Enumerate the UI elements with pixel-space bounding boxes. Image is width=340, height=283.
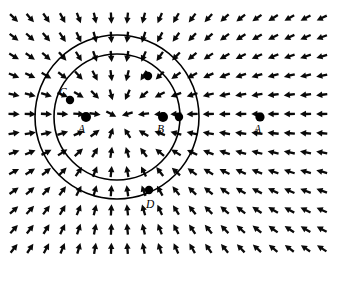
field-arrow-icon — [124, 128, 131, 138]
field-arrow-icon — [268, 92, 279, 98]
field-arrow-icon — [300, 207, 311, 213]
field-arrow-icon — [171, 149, 181, 156]
field-arrow-icon — [285, 245, 295, 253]
field-arrow-icon — [189, 224, 196, 234]
field-arrow-icon — [285, 226, 295, 233]
field-arrow-icon — [124, 32, 130, 43]
field-arrow-icon — [268, 207, 278, 214]
field-arrow-icon — [108, 89, 114, 100]
field-arrow-icon — [235, 111, 246, 117]
field-arrow-icon — [58, 71, 68, 79]
field-arrow-icon — [300, 92, 311, 98]
field-arrow-icon — [141, 243, 147, 254]
field-arrow-icon — [316, 92, 327, 98]
field-arrow-icon — [188, 32, 197, 41]
point-marker-A-right — [255, 112, 264, 121]
field-arrow-icon — [300, 111, 311, 117]
point-label-D-inner: D — [145, 198, 155, 210]
field-arrow-icon — [9, 225, 17, 234]
field-arrow-icon — [220, 33, 230, 41]
field-arrow-icon — [189, 243, 196, 253]
field-arrow-icon — [268, 34, 279, 40]
field-arrow-icon — [220, 53, 230, 60]
field-arrow-icon — [89, 111, 100, 117]
field-arrow-icon — [124, 147, 130, 158]
field-arrow-icon — [316, 130, 327, 136]
field-arrow-icon — [173, 32, 181, 42]
field-arrow-icon — [219, 92, 230, 98]
field-arrow-icon — [172, 52, 181, 61]
field-arrow-icon — [204, 206, 213, 215]
field-arrow-icon — [108, 166, 114, 177]
field-arrow-icon — [41, 168, 51, 176]
field-arrow-icon — [235, 72, 246, 78]
field-arrow-icon — [108, 12, 114, 23]
field-arrow-icon — [157, 205, 163, 216]
field-arrow-icon — [124, 204, 130, 215]
field-arrow-icon — [268, 53, 279, 59]
field-arrow-icon — [25, 150, 36, 156]
field-arrow-icon — [203, 111, 214, 117]
field-arrow-icon — [284, 14, 294, 21]
field-arrow-icon — [59, 243, 65, 254]
field-arrow-icon — [108, 51, 114, 62]
field-arrow-icon — [173, 243, 179, 254]
field-arrow-icon — [76, 243, 82, 254]
field-arrow-icon — [188, 187, 197, 196]
field-arrow-icon — [205, 244, 212, 254]
field-arrow-icon — [25, 187, 34, 195]
field-arrow-icon — [91, 70, 97, 80]
field-arrow-icon — [203, 72, 214, 78]
field-arrow-icon — [173, 205, 180, 215]
field-arrow-icon — [75, 32, 81, 43]
field-arrow-icon — [140, 148, 148, 158]
field-arrow-icon — [204, 33, 213, 41]
field-arrow-icon — [90, 130, 100, 138]
field-arrow-icon — [253, 244, 262, 253]
field-arrow-icon — [92, 51, 98, 62]
field-arrow-icon — [59, 224, 65, 235]
field-arrow-icon — [236, 169, 247, 175]
field-arrow-icon — [301, 14, 311, 20]
field-arrow-icon — [252, 207, 262, 214]
field-arrow-icon — [235, 92, 246, 98]
field-arrow-icon — [42, 205, 50, 215]
field-arrow-icon — [317, 207, 328, 213]
point-marker-dot-right-inner — [175, 113, 183, 121]
field-arrow-icon — [221, 244, 229, 253]
field-arrow-icon — [300, 188, 311, 194]
field-arrow-icon — [171, 72, 181, 79]
field-arrow-icon — [157, 32, 163, 42]
field-arrow-icon — [235, 130, 246, 136]
field-arrow-icon — [284, 169, 295, 175]
field-arrow-icon — [74, 149, 83, 157]
field-arrow-icon — [124, 243, 130, 254]
field-arrow-icon — [124, 70, 130, 81]
field-arrow-icon — [43, 243, 49, 253]
field-arrow-icon — [138, 111, 149, 117]
field-arrow-icon — [59, 32, 66, 42]
field-arrow-icon — [57, 111, 68, 117]
point-label-A-center: A — [77, 123, 86, 135]
field-arrow-icon — [284, 92, 295, 98]
field-arrow-icon — [26, 206, 34, 215]
field-arrow-icon — [9, 206, 18, 214]
field-arrow-icon — [41, 92, 52, 98]
field-arrow-icon — [91, 148, 98, 158]
field-arrow-icon — [9, 13, 18, 22]
field-arrow-icon — [268, 130, 279, 136]
field-arrow-icon — [8, 111, 19, 117]
field-arrow-icon — [42, 187, 51, 196]
field-arrow-icon — [9, 187, 19, 194]
field-arrow-icon — [170, 130, 181, 136]
field-arrow-icon — [221, 225, 230, 234]
field-arrow-icon — [316, 169, 327, 175]
field-arrow-icon — [9, 169, 19, 175]
field-arrow-icon — [284, 207, 294, 213]
field-arrow-icon — [124, 224, 130, 235]
field-arrow-icon — [188, 168, 198, 176]
field-arrow-icon — [316, 53, 327, 59]
field-arrow-icon — [41, 52, 50, 60]
field-arrow-icon — [220, 188, 230, 195]
field-arrow-icon — [251, 149, 262, 155]
